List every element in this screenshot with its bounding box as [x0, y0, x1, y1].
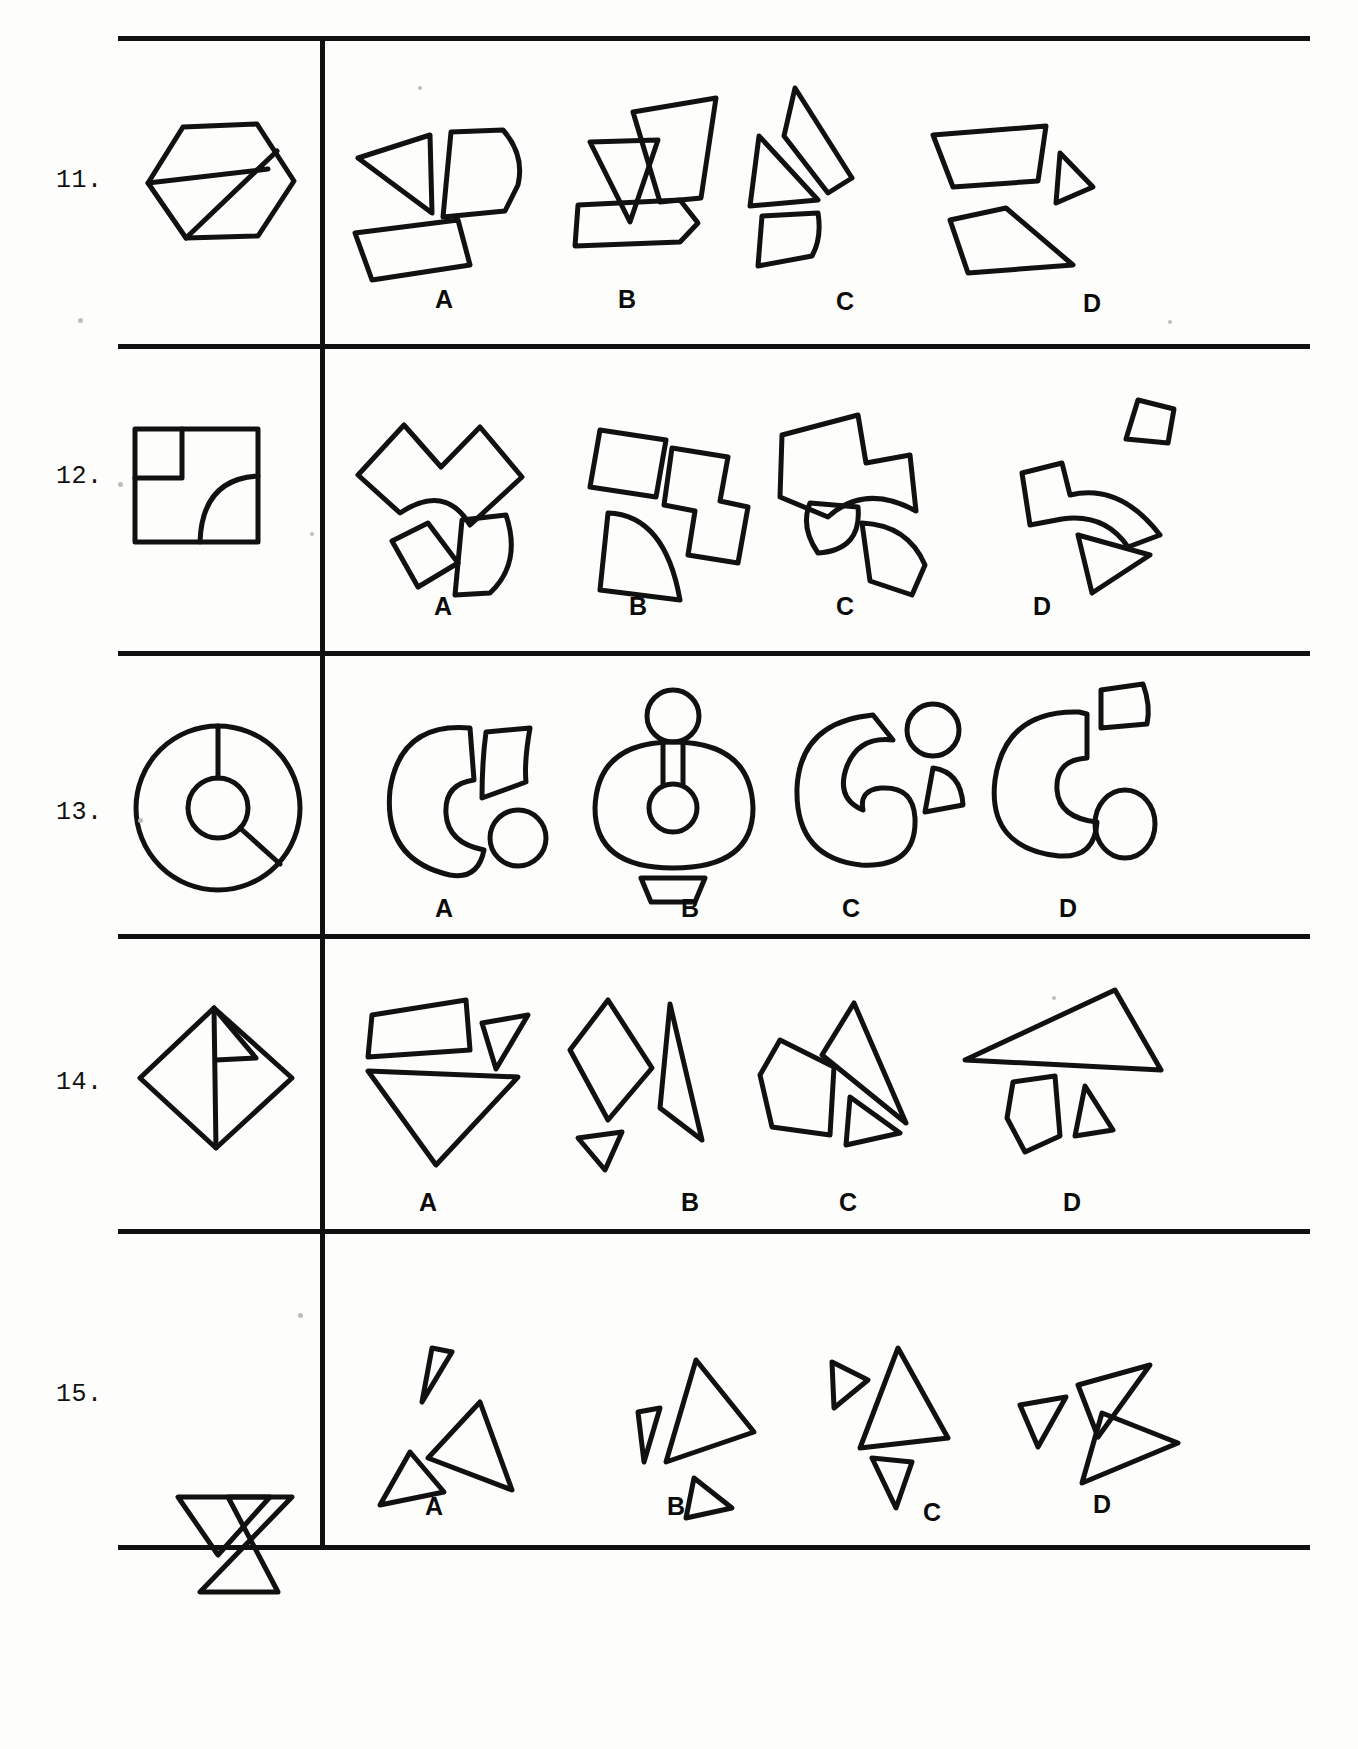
- option-figure-13-a: [378, 710, 568, 885]
- prompt-figure-15: [170, 1487, 300, 1602]
- option-label-13-d: D: [1059, 894, 1077, 923]
- rule-12-13: [118, 651, 1310, 656]
- option-label-15-c: C: [923, 1498, 941, 1527]
- option-label-12-a: A: [434, 592, 452, 621]
- rule-13-14: [118, 934, 1310, 939]
- option-figure-12-d: [1000, 395, 1190, 595]
- scan-speck: [418, 86, 422, 90]
- option-figure-11-a: [350, 110, 535, 280]
- option-label-12-b: B: [629, 592, 647, 621]
- question-number-15: 15.: [56, 1380, 126, 1409]
- option-figure-11-c: [740, 78, 925, 278]
- prompt-figure-13: [128, 718, 308, 898]
- option-label-14-c: C: [839, 1188, 857, 1217]
- option-label-12-c: C: [836, 592, 854, 621]
- option-figure-14-c: [750, 995, 930, 1170]
- column-divider-13: [320, 651, 325, 934]
- scan-speck: [298, 1313, 303, 1318]
- option-label-14-d: D: [1063, 1188, 1081, 1217]
- option-figure-14-b: [560, 990, 740, 1175]
- scan-speck: [1052, 996, 1056, 1000]
- option-label-11-d: D: [1083, 289, 1101, 318]
- option-label-13-a: A: [435, 894, 453, 923]
- prompt-figure-12: [130, 424, 270, 549]
- prompt-figure-11: [140, 105, 300, 250]
- option-label-15-d: D: [1093, 1490, 1111, 1519]
- option-label-12-d: D: [1033, 592, 1051, 621]
- option-figure-15-c: [820, 1330, 1000, 1520]
- rule-14-15: [118, 1229, 1310, 1234]
- test-page: 11. A B C: [0, 0, 1358, 1749]
- question-number-13: 13.: [56, 798, 126, 827]
- option-figure-12-b: [580, 415, 765, 605]
- option-label-11-b: B: [618, 285, 636, 314]
- scan-speck: [118, 482, 123, 487]
- rule-top: [118, 36, 1310, 41]
- option-figure-15-b: [608, 1350, 788, 1530]
- option-label-15-a: A: [425, 1492, 443, 1521]
- question-number-12: 12.: [56, 462, 126, 491]
- option-figure-13-b: [585, 690, 760, 905]
- column-divider-15: [320, 1229, 325, 1545]
- option-label-13-c: C: [842, 894, 860, 923]
- option-figure-14-a: [358, 995, 543, 1175]
- scan-speck: [310, 532, 314, 536]
- scan-speck: [138, 818, 143, 823]
- option-figure-14-d: [955, 980, 1175, 1165]
- column-divider-14: [320, 934, 325, 1229]
- option-label-15-b: B: [667, 1492, 685, 1521]
- option-label-11-a: A: [435, 285, 453, 314]
- option-figure-12-c: [770, 405, 970, 600]
- rule-11-12: [118, 344, 1310, 349]
- question-number-14: 14.: [56, 1068, 126, 1097]
- option-figure-13-d: [975, 680, 1175, 870]
- option-figure-15-a: [370, 1340, 550, 1520]
- column-divider-11: [320, 36, 325, 344]
- option-label-14-b: B: [681, 1188, 699, 1217]
- option-label-14-a: A: [419, 1188, 437, 1217]
- column-divider-12: [320, 344, 325, 651]
- option-figure-12-a: [340, 415, 535, 595]
- option-figure-11-d: [928, 115, 1128, 280]
- option-figure-13-c: [785, 700, 975, 875]
- scan-speck: [1168, 320, 1172, 324]
- option-label-13-b: B: [681, 894, 699, 923]
- prompt-figure-14: [132, 1000, 302, 1160]
- option-label-11-c: C: [836, 287, 854, 316]
- question-number-11: 11.: [56, 166, 126, 195]
- scan-speck: [78, 318, 83, 323]
